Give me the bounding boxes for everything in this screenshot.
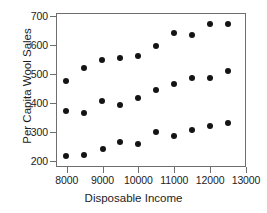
- x-tick-mark: [138, 167, 139, 173]
- data-point: [189, 75, 195, 81]
- data-point: [225, 68, 231, 74]
- y-tick-mark: [50, 16, 56, 17]
- data-point: [189, 127, 195, 133]
- y-tick-mark: [50, 74, 56, 75]
- data-point: [117, 55, 123, 61]
- y-tick-mark: [50, 132, 56, 133]
- data-point: [153, 129, 159, 135]
- scatter-plot-figure: 200300400500600700 800090001000011000120…: [0, 0, 267, 213]
- x-tick-mark: [210, 167, 211, 173]
- x-tick-mark: [246, 167, 247, 173]
- data-point: [63, 108, 69, 114]
- data-point: [189, 32, 195, 38]
- x-tick-mark: [174, 167, 175, 173]
- data-point: [81, 65, 87, 71]
- data-point: [63, 78, 69, 84]
- x-axis-title: Disposable Income: [0, 192, 267, 204]
- data-point: [207, 123, 213, 129]
- data-point: [81, 152, 87, 158]
- data-point: [81, 110, 87, 116]
- y-tick-mark: [50, 103, 56, 104]
- y-tick-mark: [50, 161, 56, 162]
- data-point: [225, 120, 231, 126]
- x-tick-label: 13000: [223, 175, 267, 186]
- plot-area-frame: [56, 13, 246, 167]
- data-point: [99, 98, 105, 104]
- data-point: [100, 146, 106, 152]
- y-axis-title: Per Capita Wool Sales: [21, 6, 33, 166]
- y-tick-mark: [50, 45, 56, 46]
- data-point: [117, 102, 123, 108]
- x-tick-mark: [67, 167, 68, 173]
- x-tick-mark: [103, 167, 104, 173]
